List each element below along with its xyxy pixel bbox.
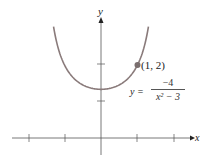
point-marker-icon: [135, 62, 141, 68]
equation-lhs-text: y =: [130, 86, 144, 97]
equation-denominator: x² − 3: [151, 90, 185, 102]
y-axis-arrow-icon: [99, 17, 104, 23]
y-axis-label: y: [98, 6, 103, 17]
x-axis-label: x: [195, 133, 199, 143]
equation-numerator: −4: [151, 77, 185, 90]
equation-lhs: y =: [130, 87, 144, 97]
point-label: (1, 2): [141, 60, 165, 71]
equation-fraction: −4 x² − 3: [151, 77, 185, 102]
